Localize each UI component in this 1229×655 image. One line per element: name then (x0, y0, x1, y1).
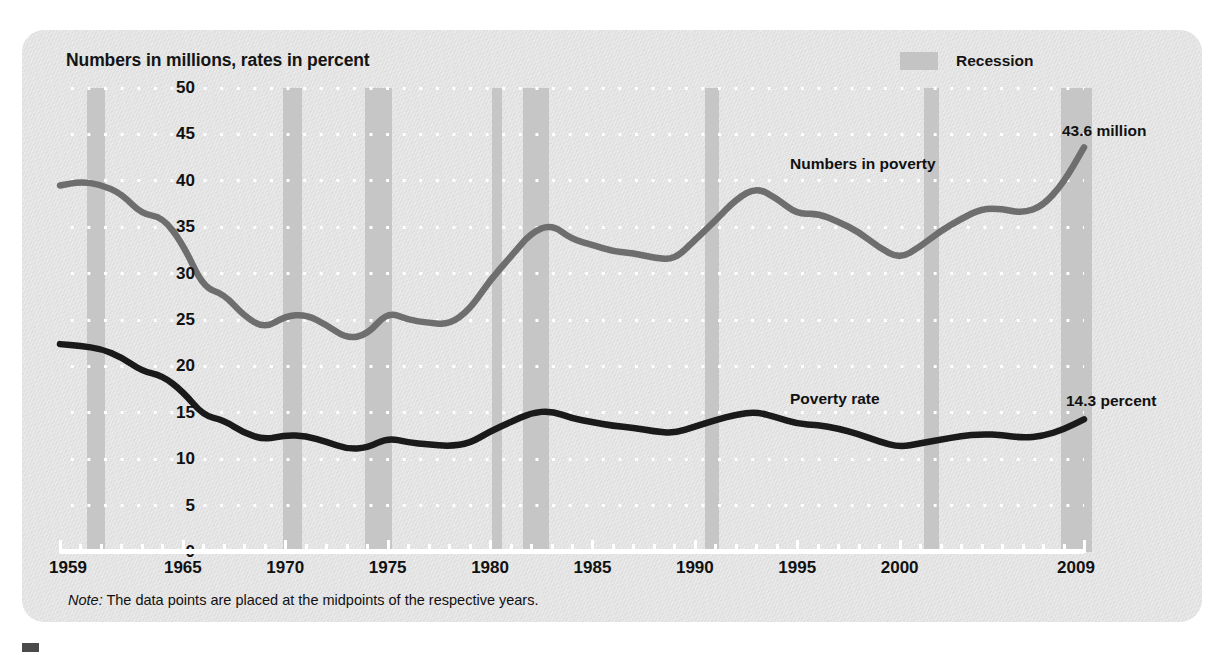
legend-label-recession: Recession (956, 52, 1034, 70)
x-axis-tick (59, 540, 62, 553)
x-axis-tick (141, 544, 144, 553)
x-axis-tick-label: 1985 (574, 558, 612, 578)
x-axis-tick (755, 544, 758, 553)
x-axis-tick-label: 1995 (778, 558, 816, 578)
series-label-numbers-in-poverty: Numbers in poverty (790, 155, 936, 173)
x-axis-tick (530, 544, 533, 553)
x-axis-tick (1063, 544, 1066, 553)
x-axis-tick (981, 544, 984, 553)
y-axis-tick-label: 50 (155, 78, 195, 98)
series-line-numbers-in-poverty (60, 147, 1084, 337)
x-axis-tick (243, 544, 246, 553)
x-axis-tick (325, 544, 328, 553)
x-axis-tick (284, 540, 287, 553)
x-axis-tick (407, 544, 410, 553)
x-axis-tick (489, 540, 492, 553)
x-axis-tick (694, 540, 697, 553)
x-axis-tick-label: 2000 (881, 558, 919, 578)
y-axis-tick-label: 45 (155, 124, 195, 144)
y-axis-tick-label: 35 (155, 217, 195, 237)
x-axis-tick-label: 1975 (369, 558, 407, 578)
end-value-numbers-in-poverty: 43.6 million (1062, 122, 1146, 140)
corner-marker (22, 643, 39, 652)
x-axis-tick (612, 544, 615, 553)
x-axis-tick (305, 544, 308, 553)
x-axis-tick (79, 544, 82, 553)
x-axis-tick (673, 544, 676, 553)
y-axis-tick-label: 30 (155, 264, 195, 284)
y-axis-tick-label: 5 (155, 496, 195, 516)
x-axis-tick (1001, 544, 1004, 553)
x-axis-tick (366, 544, 369, 553)
x-axis-tick-label: 1980 (471, 558, 509, 578)
chart-figure: Numbers in millions, rates in percent Re… (0, 0, 1229, 655)
x-axis-tick (632, 544, 635, 553)
x-axis-tick (510, 544, 513, 553)
x-axis-tick (387, 540, 390, 553)
x-axis-tick-label: 1990 (676, 558, 714, 578)
x-axis-tick (182, 540, 185, 553)
legend: Recession (900, 52, 1034, 70)
x-axis-tick (551, 544, 554, 553)
x-axis-tick (448, 544, 451, 553)
y-axis-tick-label: 10 (155, 449, 195, 469)
x-axis-tick (100, 544, 103, 553)
x-axis-tick (1022, 544, 1025, 553)
y-axis-tick-label: 15 (155, 403, 195, 423)
x-axis-tick (714, 544, 717, 553)
x-axis-tick (837, 544, 840, 553)
x-axis-tick (591, 540, 594, 553)
y-axis-tick-label: 20 (155, 356, 195, 376)
y-axis-tick-label: 25 (155, 310, 195, 330)
x-axis-tick-label: 2009 (1057, 558, 1095, 578)
series-line-poverty-rate (60, 344, 1084, 448)
x-axis-tick (919, 544, 922, 553)
x-axis-tick (161, 544, 164, 553)
x-axis-tick (1083, 540, 1086, 553)
x-axis-tick (202, 544, 205, 553)
x-axis-tick (346, 544, 349, 553)
x-axis-tick (223, 544, 226, 553)
x-axis-tick (878, 544, 881, 553)
x-axis-tick (264, 544, 267, 553)
x-axis-tick (469, 544, 472, 553)
x-axis-tick (1042, 544, 1045, 553)
x-axis-tick (428, 544, 431, 553)
x-axis-tick (817, 544, 820, 553)
chart-note: Note: The data points are placed at the … (68, 592, 538, 608)
x-axis-tick-label: 1970 (266, 558, 304, 578)
recession-swatch (900, 52, 938, 70)
x-axis-tick (735, 544, 738, 553)
x-axis-tick (940, 544, 943, 553)
y-axis-tick-label: 40 (155, 171, 195, 191)
x-axis-tick (653, 544, 656, 553)
x-axis-tick (571, 544, 574, 553)
x-axis-tick (776, 544, 779, 553)
x-axis-tick (120, 544, 123, 553)
note-prefix: Note: (68, 592, 103, 608)
x-axis-tick (899, 540, 902, 553)
note-text: The data points are placed at the midpoi… (103, 592, 539, 608)
axis-units-title: Numbers in millions, rates in percent (66, 50, 370, 71)
x-axis-tick-label: 1965 (164, 558, 202, 578)
x-axis-tick (960, 544, 963, 553)
x-axis-tick (858, 544, 861, 553)
series-label-poverty-rate: Poverty rate (790, 390, 880, 408)
end-value-poverty-rate: 14.3 percent (1066, 392, 1156, 410)
x-axis-tick (796, 540, 799, 553)
x-axis-tick-label: 1959 (49, 558, 87, 578)
